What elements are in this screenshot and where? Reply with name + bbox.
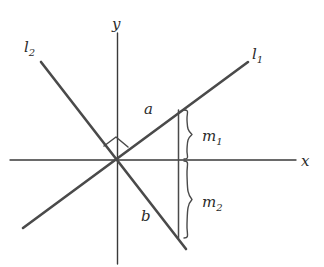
measure-m2-label-base: m bbox=[202, 193, 216, 211]
measure-m2-label-subscript: 2 bbox=[215, 202, 222, 213]
y-axis-label: y bbox=[111, 15, 121, 33]
measure-m1-label-subscript: 1 bbox=[216, 136, 222, 147]
measure-m1-label: m1 bbox=[202, 127, 223, 147]
point-a-label: a bbox=[144, 100, 153, 118]
brace-m2 bbox=[184, 161, 192, 238]
line-l1-label: l1 bbox=[252, 45, 263, 65]
x-axis-label: x bbox=[301, 152, 310, 170]
axes-group bbox=[10, 33, 296, 264]
measure-m2-label: m2 bbox=[202, 193, 223, 213]
figure-canvas: y x l2 l1 a b m1 m2 bbox=[0, 0, 324, 267]
line-l2 bbox=[41, 62, 186, 249]
line-l2-label-subscript: 2 bbox=[28, 47, 35, 58]
labels-group: y x l2 l1 a b m1 m2 bbox=[24, 15, 310, 225]
line-l2-label: l2 bbox=[24, 38, 35, 58]
geometry-figure: y x l2 l1 a b m1 m2 bbox=[0, 0, 324, 267]
line-l1-label-subscript: 1 bbox=[257, 54, 263, 65]
point-b-label: b bbox=[141, 207, 151, 225]
right-angle-icon bbox=[104, 137, 128, 147]
measure-m1-label-base: m bbox=[202, 127, 216, 145]
brace-m1 bbox=[184, 110, 192, 159]
